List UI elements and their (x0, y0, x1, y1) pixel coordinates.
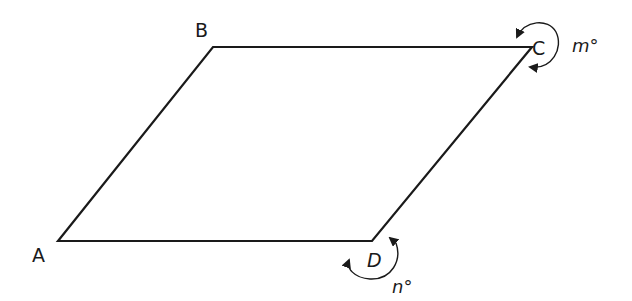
vertex-label-b: B (195, 19, 208, 41)
vertex-label-d: D (367, 249, 382, 271)
angle-label-m: m° (572, 35, 599, 56)
angle-arc-d-head (390, 238, 396, 243)
vertex-label-a: A (32, 244, 45, 266)
vertex-label-c: C (532, 37, 545, 59)
angle-label-n: n° (392, 276, 412, 297)
parallelogram-diagram: A B C D m° n° (0, 0, 632, 301)
parallelogram-abcd (58, 47, 532, 241)
